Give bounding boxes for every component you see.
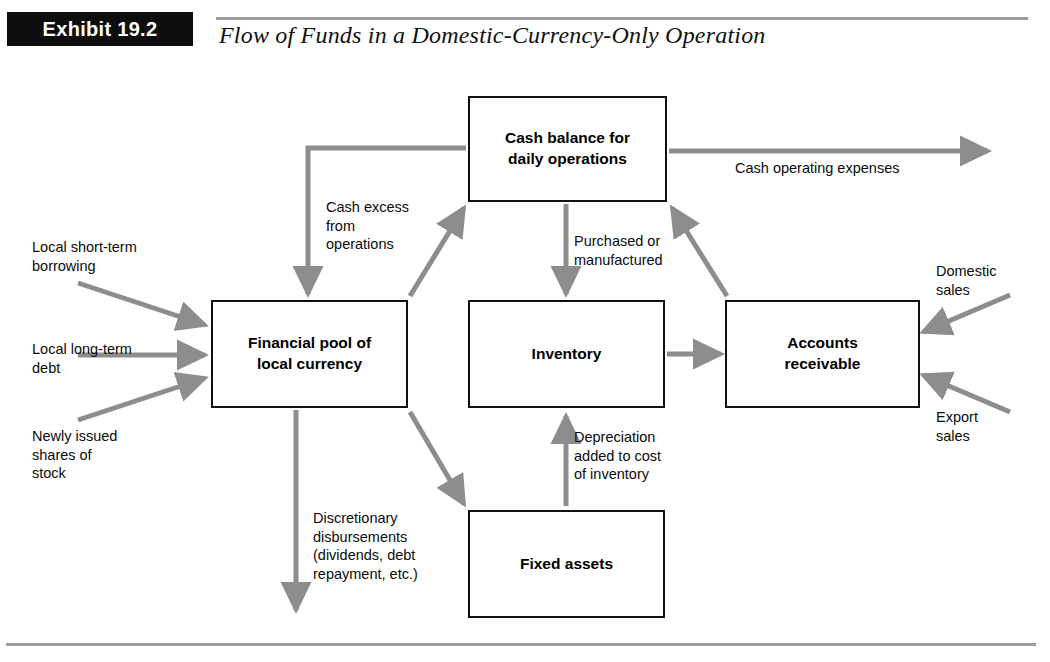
label-local-short-term-borrowing: Local short-term borrowing: [32, 238, 137, 275]
node-inventory-label-line1: Inventory: [532, 344, 602, 365]
arrow-newly-issued-shares: [78, 378, 205, 420]
label-cash-operating-expenses: Cash operating expenses: [735, 159, 899, 178]
node-financial-pool-label-line2: local currency: [248, 354, 371, 375]
node-financial-pool-label-line1: Financial pool of: [248, 333, 371, 354]
flow-diagram-canvas: Cash balance for daily operations Financ…: [0, 0, 1050, 662]
label-export-sales: Export sales: [936, 408, 978, 445]
arrow-local-short-term-borrowing: [78, 283, 205, 325]
arrow-domestic-sales: [923, 295, 1010, 332]
exhibit-figure: Exhibit 19.2 Flow of Funds in a Domestic…: [0, 0, 1050, 662]
label-cash-excess-from-operations: Cash excess from operations: [326, 198, 409, 254]
node-cash-balance-label-line1: Cash balance for: [505, 128, 630, 149]
label-depreciation-added: Depreciation added to cost of inventory: [574, 428, 661, 484]
arrow-cash-excess-from-operations: [410, 208, 464, 296]
node-accounts-receivable-label-line2: receivable: [785, 354, 861, 375]
node-cash-balance[interactable]: Cash balance for daily operations: [468, 96, 667, 202]
node-fixed-assets-label-line1: Fixed assets: [520, 554, 613, 575]
footer-divider-rule: [6, 643, 1036, 646]
label-local-long-term-debt: Local long-term debt: [32, 340, 132, 377]
node-accounts-receivable-label-line1: Accounts: [785, 333, 861, 354]
node-fixed-assets[interactable]: Fixed assets: [468, 510, 665, 618]
label-domestic-sales: Domestic sales: [936, 262, 996, 299]
node-financial-pool[interactable]: Financial pool of local currency: [211, 300, 408, 408]
label-purchased-or-manufactured: Purchased or manufactured: [574, 232, 663, 269]
node-inventory[interactable]: Inventory: [468, 300, 665, 408]
arrow-accounts-receivable-to-cash-balance: [672, 208, 727, 296]
arrow-export-sales: [923, 375, 1010, 412]
label-newly-issued-shares: Newly issued shares of stock: [32, 427, 117, 483]
label-discretionary-disbursements: Discretionary disbursements (dividends, …: [313, 509, 418, 583]
arrow-pool-to-fixed-assets: [410, 412, 464, 504]
node-accounts-receivable[interactable]: Accounts receivable: [725, 300, 920, 408]
node-cash-balance-label-line2: daily operations: [505, 149, 630, 170]
